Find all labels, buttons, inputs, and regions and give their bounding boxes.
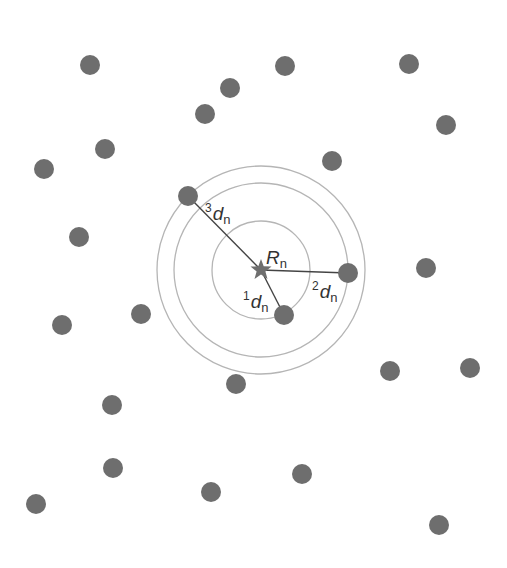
point-dot [103, 458, 123, 478]
distance-labels: Rn 1dn2dn3dn [205, 201, 338, 315]
point-dot [52, 315, 72, 335]
neighbor-dot-2 [338, 263, 358, 283]
point-dot [460, 358, 480, 378]
point-dot [195, 104, 215, 124]
center-label: Rn [266, 247, 287, 271]
neighbor-dot-3 [178, 186, 198, 206]
point-dot [80, 55, 100, 75]
point-dot [322, 151, 342, 171]
point-dot [429, 515, 449, 535]
point-dot [416, 258, 436, 278]
point-dot [34, 159, 54, 179]
point-dot [436, 115, 456, 135]
point-dot [102, 395, 122, 415]
point-dot [275, 56, 295, 76]
point-dot [69, 227, 89, 247]
distance-label-2: 2dn [312, 279, 338, 305]
neighbor-dot-1 [274, 305, 294, 325]
nearest-neighbor-diagram: Rn 1dn2dn3dn [0, 0, 507, 568]
point-dot [95, 139, 115, 159]
point-dot [226, 374, 246, 394]
distance-label-1: 1dn [243, 289, 269, 315]
point-dot [201, 482, 221, 502]
distance-label-3: 3dn [205, 201, 231, 227]
distance-line-3 [188, 196, 261, 270]
point-dot [380, 361, 400, 381]
point-dot [399, 54, 419, 74]
point-dot [26, 494, 46, 514]
point-dot [292, 464, 312, 484]
point-dot [131, 304, 151, 324]
point-dot [220, 78, 240, 98]
distance-line-2 [261, 270, 348, 273]
